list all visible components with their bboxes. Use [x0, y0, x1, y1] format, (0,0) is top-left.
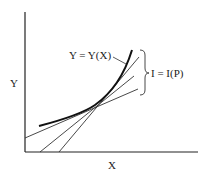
tangent-line-3	[59, 57, 139, 152]
curve-label-leader	[113, 57, 126, 64]
curve-y-of-x	[39, 50, 132, 126]
tangent-line-2	[40, 76, 134, 152]
x-axis-label: X	[108, 159, 116, 171]
tangent-line-1	[25, 89, 138, 138]
tangent-family-label: I = I(P)	[151, 67, 184, 80]
diagram-canvas: Y X Y = Y(X) I = I(P)	[0, 0, 205, 175]
curve-label: Y = Y(X)	[69, 49, 111, 62]
brace-icon	[140, 50, 149, 95]
y-axis-label: Y	[10, 77, 18, 89]
